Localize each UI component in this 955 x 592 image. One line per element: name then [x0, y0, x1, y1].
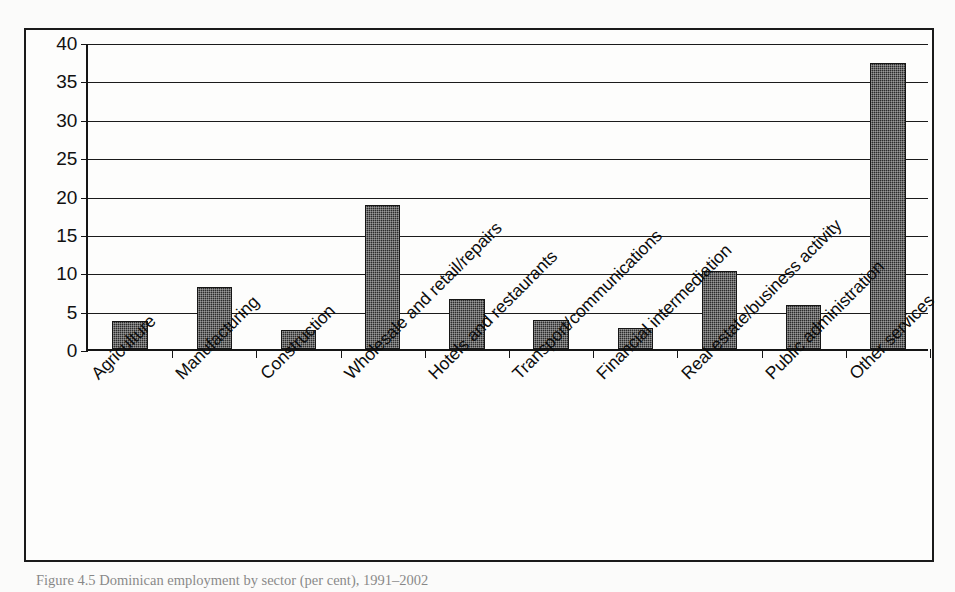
- y-axis-tick: [81, 44, 88, 45]
- bar: [618, 328, 653, 349]
- bar: [281, 330, 316, 349]
- y-axis-tick: [81, 351, 88, 352]
- y-axis-tick-label: 30: [56, 110, 77, 132]
- x-axis-tick: [762, 349, 763, 358]
- x-axis-tick: [677, 349, 678, 358]
- x-axis-tick: [509, 349, 510, 358]
- y-axis-tick-label: 5: [67, 302, 77, 324]
- bar: [870, 63, 905, 349]
- bar: [786, 305, 821, 349]
- bar: [197, 287, 232, 349]
- y-axis-tick: [81, 274, 88, 275]
- x-axis-tick: [593, 349, 594, 358]
- gridline: [88, 274, 928, 275]
- gridline: [88, 121, 928, 122]
- y-axis-tick: [81, 121, 88, 122]
- y-axis-tick-label: 10: [56, 263, 77, 285]
- x-axis-tick: [425, 349, 426, 358]
- x-axis-tick: [846, 349, 847, 358]
- figure-caption: Figure 4.5 Dominican employment by secto…: [36, 572, 428, 589]
- gridline: [88, 44, 928, 45]
- y-axis-tick-label: 20: [56, 187, 77, 209]
- y-axis-tick-label: 0: [67, 340, 77, 362]
- x-axis-tick: [930, 349, 931, 358]
- bar: [112, 321, 147, 349]
- x-axis-tick: [256, 349, 257, 358]
- y-axis-tick-label: 35: [56, 71, 77, 93]
- y-axis-tick-label: 40: [56, 33, 77, 55]
- y-axis-tick-label: 25: [56, 148, 77, 170]
- gridline: [88, 159, 928, 160]
- bar: [365, 205, 400, 349]
- gridline: [88, 198, 928, 199]
- y-axis-tick: [81, 313, 88, 314]
- x-axis-tick: [341, 349, 342, 358]
- bar: [702, 271, 737, 349]
- bar: [449, 299, 484, 349]
- x-axis-tick: [172, 349, 173, 358]
- y-axis-tick: [81, 82, 88, 83]
- y-axis-tick: [81, 198, 88, 199]
- gridline: [88, 236, 928, 237]
- gridline: [88, 82, 928, 83]
- bar: [533, 320, 568, 349]
- y-axis-tick-label: 15: [56, 225, 77, 247]
- y-axis-tick: [81, 159, 88, 160]
- bar-chart-plot-area: 4035302520151050: [86, 44, 928, 351]
- y-axis-tick: [81, 236, 88, 237]
